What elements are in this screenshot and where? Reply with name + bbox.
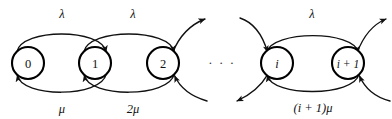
state-node-i-plus-1[interactable]: i + 1 [332,47,364,79]
birth-transition-arcs [17,18,386,53]
death-rate-labels: μ 2μ (i + 1)μ [58,101,333,116]
edge-2-to-next-offscreen [173,19,206,53]
markov-chain-diagram: 0 1 2 i i + 1 · · · λ λ [0,0,392,119]
state-node-i-label: i [275,57,279,71]
state-node-2-label: 2 [160,57,166,71]
state-node-0[interactable]: 0 [12,47,44,79]
rate-label-lambda-0-1: λ [58,7,65,21]
rate-label-2mu-2-1: 2μ [127,102,140,116]
state-node-1[interactable]: 1 [79,47,111,79]
rate-label-lambda-i-i-plus-1: λ [308,7,315,21]
edge-i-to-prev-offscreen [237,75,268,101]
rate-label-i-plus-1-mu: (i + 1)μ [293,101,332,115]
states-ellipsis: · · · [208,55,236,70]
state-nodes: 0 1 2 i i + 1 [12,47,364,79]
state-transition-diagram-canvas: 0 1 2 i i + 1 · · · λ λ [0,0,392,119]
edge-i-plus-1-to-next-offscreen [357,19,386,53]
rate-label-mu-1-0: μ [58,102,65,116]
edge-next-offscreen-to-2 [175,76,207,101]
edge-next-offscreen-to-i-plus-1 [359,76,390,101]
rate-label-lambda-1-2: λ [129,7,136,21]
state-node-2[interactable]: 2 [147,47,179,79]
birth-rate-labels: λ λ λ [58,7,315,21]
state-node-1-label: 1 [92,57,98,71]
state-node-i[interactable]: i [261,47,293,79]
state-node-0-label: 0 [25,57,31,71]
death-transition-arcs [17,74,390,101]
state-node-i-plus-1-label: i + 1 [337,58,359,70]
edge-prev-offscreen-to-i [240,18,268,52]
